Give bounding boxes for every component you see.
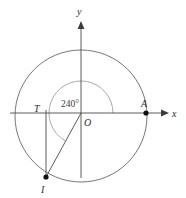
- point-a-dot: [143, 110, 148, 115]
- x-axis-label: x: [171, 108, 177, 119]
- point-i-label: I: [40, 184, 45, 195]
- angle-value-label: 240°: [61, 99, 79, 109]
- point-i-dot: [43, 174, 48, 179]
- x-axis-arrowhead: [161, 110, 169, 117]
- y-axis-arrowhead: [78, 21, 85, 29]
- y-axis-label: y: [76, 6, 82, 17]
- geometry-figure: y x O 240° A T I: [0, 0, 186, 198]
- segment-terminal-radius: [46, 113, 81, 177]
- point-t-label: T: [34, 103, 41, 114]
- origin-label: O: [84, 117, 91, 128]
- point-a-label: A: [140, 98, 148, 109]
- figure-canvas: y x O 240° A T I: [0, 0, 186, 198]
